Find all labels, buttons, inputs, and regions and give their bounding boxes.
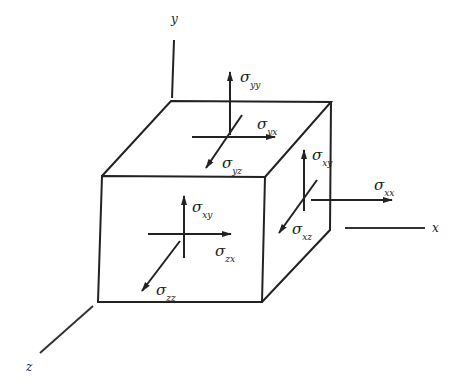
stress-cube-diagram: y x z σyy σyx σyz σxy σxx σxz σxy σzx σz…: [0, 0, 461, 389]
cube: [98, 101, 331, 302]
sigma-xz-label: σxz: [292, 222, 312, 240]
sigma-zz-label: σzz: [156, 283, 176, 301]
sigma-yx-label: σyx: [257, 117, 277, 135]
sigma-xy-label: σxy: [312, 148, 332, 166]
y-axis-line: [172, 40, 174, 98]
sigma-zx-label: σzx: [215, 244, 235, 262]
z-axis-label: z: [26, 361, 32, 373]
sigma-zy-label: σxy: [192, 200, 212, 218]
sigma-yy-label: σyy: [240, 70, 260, 88]
x-axis-label: x: [432, 222, 439, 234]
y-axis-label: y: [171, 13, 178, 25]
cube-top-face: [102, 101, 331, 177]
sigma-yz-label: σyz: [222, 156, 242, 174]
cube-front-face: [98, 176, 265, 302]
sigma-xx-label: σxx: [374, 178, 394, 196]
z-axis-line: [40, 306, 93, 353]
